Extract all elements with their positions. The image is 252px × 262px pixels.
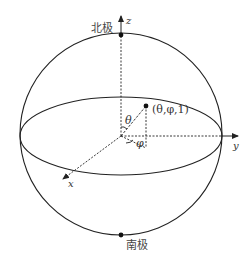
theta-label: θ	[125, 114, 132, 127]
phi-label: φ	[136, 137, 144, 150]
north-pole-dot	[119, 33, 124, 38]
south-pole-label: 南极	[126, 238, 148, 252]
x-axis-dashed	[63, 136, 121, 179]
y-axis-label: y	[232, 140, 239, 151]
phi-arc	[126, 140, 133, 143]
theta-arc	[121, 127, 127, 129]
state-point-dot	[144, 104, 149, 109]
x-axis-label: x	[68, 178, 74, 189]
z-axis-label: z	[125, 15, 132, 26]
point-coordinate-label: (θ,φ,1)	[152, 103, 189, 116]
bloch-sphere-diagram: 北极 南极 z y x θ φ (θ,φ,1)	[0, 0, 252, 262]
south-pole-dot	[119, 233, 124, 238]
north-pole-label: 北极	[91, 21, 113, 35]
